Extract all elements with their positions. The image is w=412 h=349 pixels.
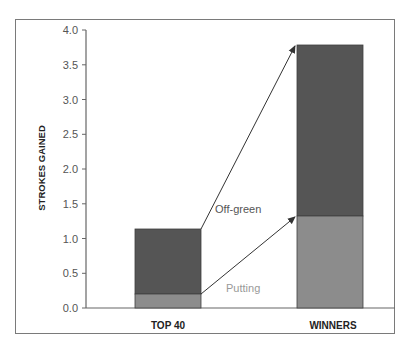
bar-winners bbox=[297, 45, 363, 308]
y-tick-label: 4.0 bbox=[63, 24, 78, 36]
y-tick-labels: 0.0 0.5 1.0 1.5 2.0 2.5 3.0 3.5 4.0 bbox=[63, 24, 78, 314]
arrow-off-green bbox=[201, 46, 295, 229]
bar-top40-off-green bbox=[135, 229, 201, 294]
bar-winners-off-green bbox=[297, 45, 363, 216]
category-label-winners: WINNERS bbox=[309, 320, 357, 331]
y-tick-label: 0.5 bbox=[63, 267, 78, 279]
bar-top40 bbox=[135, 229, 201, 308]
y-tick-label: 1.0 bbox=[63, 233, 78, 245]
annotation-putting: Putting bbox=[226, 282, 260, 294]
y-tick-label: 2.0 bbox=[63, 163, 78, 175]
y-axis-title: STROKES GAINED bbox=[36, 125, 47, 211]
y-tick-label: 3.5 bbox=[63, 59, 78, 71]
y-tick-label: 2.5 bbox=[63, 128, 78, 140]
y-tick-label: 3.0 bbox=[63, 94, 78, 106]
bar-top40-putting bbox=[135, 294, 201, 308]
y-tick-label: 0.0 bbox=[63, 302, 78, 314]
chart-canvas: 0.0 0.5 1.0 1.5 2.0 2.5 3.0 3.5 4.0 STRO… bbox=[0, 0, 412, 349]
bar-winners-putting bbox=[297, 216, 363, 308]
y-tick-label: 1.5 bbox=[63, 198, 78, 210]
category-label-top40: TOP 40 bbox=[151, 320, 186, 331]
annotation-off-green: Off-green bbox=[215, 203, 261, 215]
